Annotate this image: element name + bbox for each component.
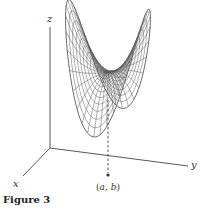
figure-caption: Figure 3 (3, 195, 50, 205)
saddle-surface-plot (0, 0, 205, 210)
figure-3: z x y (a, b) Figure 3 (0, 0, 205, 210)
point-ab-label: (a, b) (96, 183, 120, 192)
y-axis-label: y (191, 160, 197, 170)
saddle-surface-mesh (66, 0, 151, 137)
z-axis-label: z (47, 14, 52, 24)
x-axis-label: x (13, 179, 19, 189)
